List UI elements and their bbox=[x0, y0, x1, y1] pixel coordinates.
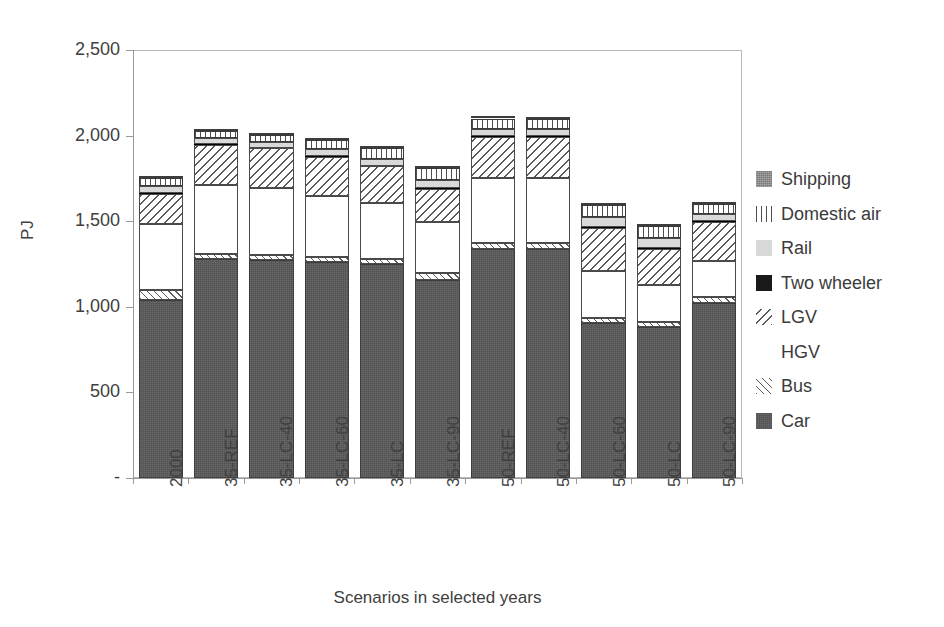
y-axis-tick-label: 2,000 bbox=[75, 126, 120, 144]
bar-segment-bus bbox=[415, 273, 459, 280]
bar-segment-hgv bbox=[194, 185, 238, 253]
x-axis-tick-label: 50-LC-90 bbox=[721, 416, 738, 487]
bar-segment-shipping bbox=[305, 138, 349, 140]
x-axis-tick bbox=[742, 478, 743, 484]
bar-segment-hgv bbox=[526, 178, 570, 242]
bar-segment-shipping bbox=[637, 224, 681, 226]
bar-segment-domestic-air bbox=[360, 148, 404, 158]
bar-segment-rail bbox=[139, 186, 183, 193]
x-axis-tick bbox=[133, 478, 134, 484]
x-axis-tick bbox=[631, 478, 632, 484]
x-axis-tick bbox=[188, 478, 189, 484]
x-axis-tick bbox=[465, 478, 466, 484]
bar-segment-rail bbox=[194, 138, 238, 144]
y-axis-tick-label: 1,000 bbox=[75, 297, 120, 315]
bar-segment-lgv bbox=[249, 148, 293, 187]
y-axis-tick-label: - bbox=[114, 468, 120, 486]
bar-segment-domestic-air bbox=[692, 204, 736, 213]
bar-segment-shipping bbox=[139, 176, 183, 178]
legend-label: Car bbox=[781, 412, 810, 430]
legend-label: Two wheeler bbox=[781, 274, 882, 292]
bar-segment-shipping bbox=[581, 203, 625, 205]
legend-item: HGV bbox=[756, 335, 882, 370]
bar-segment-domestic-air bbox=[139, 178, 183, 186]
y-axis-tick bbox=[126, 478, 133, 479]
x-axis-tick bbox=[244, 478, 245, 484]
bar-segment-bus bbox=[637, 322, 681, 327]
bar-column bbox=[471, 50, 515, 478]
legend-label: Domestic air bbox=[781, 205, 881, 223]
bar-segment-rail bbox=[305, 149, 349, 156]
legend-item: LGV bbox=[756, 300, 882, 335]
x-axis-tick-label: 35-LC-40 bbox=[278, 416, 295, 487]
bar-segment-rail bbox=[360, 159, 404, 166]
legend-swatch-icon bbox=[756, 309, 772, 325]
x-axis-tick-label: 50-LC-60 bbox=[611, 416, 628, 487]
bar-column bbox=[305, 50, 349, 478]
bar-segment-bus bbox=[692, 297, 736, 303]
bar-segment-lgv bbox=[415, 189, 459, 222]
bar-segment-bus bbox=[581, 318, 625, 323]
bar-segment-domestic-air bbox=[305, 140, 349, 149]
bar-segment-lgv bbox=[637, 249, 681, 286]
bar-segment-bus bbox=[526, 243, 570, 249]
bar-segment-rail bbox=[581, 217, 625, 227]
bar-column bbox=[139, 50, 183, 478]
bar-column bbox=[692, 50, 736, 478]
bar-segment-rail bbox=[692, 214, 736, 222]
legend-item: Domestic air bbox=[756, 197, 882, 232]
bar-segment-hgv bbox=[581, 271, 625, 318]
legend-item: Bus bbox=[756, 369, 882, 404]
bar-segment-lgv bbox=[360, 166, 404, 203]
x-axis-tick-label: 35-LC-90 bbox=[445, 416, 462, 487]
bar-segment-bus bbox=[139, 290, 183, 300]
bar-segment-hgv bbox=[637, 285, 681, 322]
legend-swatch-icon bbox=[756, 378, 772, 394]
bar-column bbox=[637, 50, 681, 478]
legend-swatch-icon bbox=[756, 240, 772, 256]
bar-segment-shipping bbox=[249, 133, 293, 135]
bar-segment-shipping bbox=[692, 202, 736, 204]
x-axis-tick bbox=[576, 478, 577, 484]
bar-segment-hgv bbox=[692, 261, 736, 297]
legend-label: HGV bbox=[781, 343, 820, 361]
bar-segment-bus bbox=[360, 259, 404, 264]
bar-column bbox=[360, 50, 404, 478]
y-axis-tick-label: 500 bbox=[90, 382, 120, 400]
bar-segment-rail bbox=[415, 180, 459, 188]
legend-label: Bus bbox=[781, 377, 812, 395]
bar-column bbox=[581, 50, 625, 478]
x-axis-tick bbox=[521, 478, 522, 484]
legend-item: Rail bbox=[756, 231, 882, 266]
y-axis-title: PJ bbox=[18, 220, 38, 240]
bar-segment-bus bbox=[194, 254, 238, 259]
bar-segment-hgv bbox=[360, 203, 404, 259]
bar-segment-shipping bbox=[526, 117, 570, 119]
bar-segment-rail bbox=[526, 129, 570, 137]
legend-swatch-icon bbox=[756, 413, 772, 429]
bar-segment-domestic-air bbox=[249, 135, 293, 142]
bar-segment-hgv bbox=[305, 196, 349, 258]
bar-segment-lgv bbox=[526, 137, 570, 178]
bar-segment-lgv bbox=[581, 228, 625, 271]
x-axis-tick bbox=[410, 478, 411, 484]
bar-column bbox=[526, 50, 570, 478]
bar-segment-domestic-air bbox=[581, 205, 625, 217]
bar-segment-bus bbox=[471, 243, 515, 249]
x-axis-tick-label: 35-LC-60 bbox=[334, 416, 351, 487]
bar-segment-domestic-air bbox=[194, 131, 238, 138]
bar-segment-hgv bbox=[139, 224, 183, 290]
bar-segment-rail bbox=[249, 142, 293, 148]
bar-segment-domestic-air bbox=[637, 226, 681, 238]
bar-segment-domestic-air bbox=[526, 119, 570, 128]
bar-segment-rail bbox=[471, 129, 515, 137]
x-axis-tick-label: 2000 bbox=[168, 449, 185, 487]
x-axis-title: Scenarios in selected years bbox=[133, 588, 742, 608]
y-axis-tick bbox=[126, 136, 133, 137]
x-axis-tick-label: 50-LC-40 bbox=[555, 416, 572, 487]
legend-swatch-icon bbox=[756, 171, 772, 187]
y-axis-tick bbox=[126, 307, 133, 308]
x-axis-tick bbox=[354, 478, 355, 484]
x-axis-tick bbox=[299, 478, 300, 484]
x-axis-tick-label: 35-LC bbox=[389, 441, 406, 487]
